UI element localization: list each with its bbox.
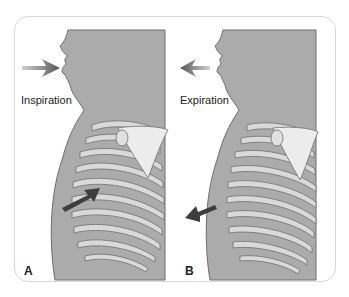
panel-b: [180, 30, 318, 280]
panel-letter-a: A: [24, 264, 33, 278]
breathing-diagram: [0, 0, 349, 297]
panel-letter-b: B: [185, 264, 194, 278]
caption-inspiration: Inspiration: [21, 94, 72, 106]
caption-expiration: Expiration: [180, 94, 229, 106]
airflow-in-arrow-icon: [22, 59, 60, 77]
airflow-out-arrow-icon: [180, 59, 210, 77]
panel-a: [22, 30, 168, 280]
